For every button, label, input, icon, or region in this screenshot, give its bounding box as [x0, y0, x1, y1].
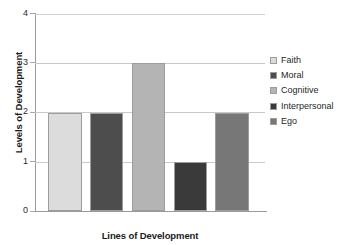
- legend-item-ego: Ego: [270, 114, 337, 129]
- legend-swatch-icon-interpersonal: [270, 103, 277, 110]
- legend-swatch-icon-faith: [270, 57, 277, 64]
- bar-cognitive: [132, 63, 165, 211]
- x-axis-title: Lines of Development: [35, 230, 265, 241]
- chart-legend: Faith Moral Cognitive Interpersonal Ego: [270, 53, 337, 129]
- legend-item-faith: Faith: [270, 53, 337, 68]
- x-axis-baseline: [35, 211, 267, 212]
- legend-item-interpersonal: Interpersonal: [270, 99, 337, 114]
- y-tick-label-2: 2: [14, 107, 28, 116]
- plot-area: [35, 14, 265, 211]
- y-tick-label-4: 4: [14, 9, 28, 18]
- legend-label-cognitive: Cognitive: [281, 86, 319, 95]
- y-tick-label-0: 0: [14, 206, 28, 215]
- y-tick-label-3: 3: [14, 58, 28, 67]
- bar-interpersonal: [174, 162, 207, 211]
- legend-swatch-icon-cognitive: [270, 87, 277, 94]
- bar-chart: Levels of Development 4 3 2 1 0 Faith: [0, 0, 337, 245]
- legend-label-moral: Moral: [281, 71, 304, 80]
- legend-item-cognitive: Cognitive: [270, 83, 337, 98]
- legend-label-ego: Ego: [281, 117, 297, 126]
- y-axis-title: Levels of Development: [13, 28, 24, 178]
- bar-faith: [48, 113, 81, 212]
- bar-moral: [90, 113, 123, 212]
- legend-item-moral: Moral: [270, 68, 337, 83]
- legend-swatch-icon-ego: [270, 118, 277, 125]
- legend-label-faith: Faith: [281, 56, 301, 65]
- bars-layer: [35, 14, 265, 211]
- y-tick-label-1: 1: [14, 157, 28, 166]
- legend-swatch-icon-moral: [270, 72, 277, 79]
- bar-ego: [215, 113, 248, 212]
- legend-label-interpersonal: Interpersonal: [281, 102, 334, 111]
